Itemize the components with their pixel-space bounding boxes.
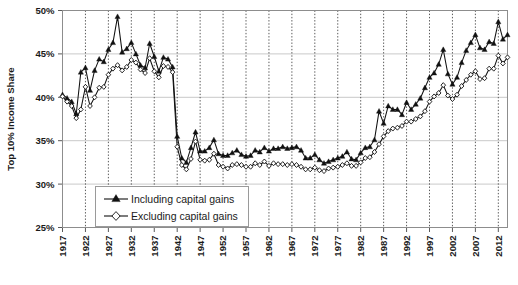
data-point-marker xyxy=(409,119,414,124)
data-point-marker xyxy=(299,164,304,169)
data-point-marker xyxy=(285,163,290,168)
data-point-marker xyxy=(473,32,478,37)
x-tick-label: 2012 xyxy=(493,236,504,257)
data-point-marker xyxy=(161,64,166,69)
x-tick-label: 1937 xyxy=(149,236,160,257)
data-point-marker xyxy=(290,162,295,167)
data-point-marker xyxy=(464,48,469,53)
data-point-marker xyxy=(92,68,97,73)
data-point-marker xyxy=(234,148,239,153)
data-point-marker xyxy=(404,100,409,105)
x-tick-label: 1922 xyxy=(80,236,91,257)
data-point-marker xyxy=(129,40,134,45)
data-point-marker xyxy=(436,62,441,67)
data-point-marker xyxy=(317,168,322,173)
data-point-marker xyxy=(468,40,473,45)
data-point-marker xyxy=(83,65,88,70)
data-point-marker xyxy=(372,137,377,142)
data-point-marker xyxy=(244,164,249,169)
data-point-marker xyxy=(216,151,221,156)
data-point-marker xyxy=(97,56,102,61)
data-point-marker xyxy=(188,145,193,150)
x-tick-label: 1997 xyxy=(424,236,435,257)
x-tick-label: 1927 xyxy=(103,236,114,257)
data-point-marker xyxy=(487,39,492,44)
data-series-group xyxy=(60,14,510,174)
data-point-marker xyxy=(294,144,299,149)
data-point-marker xyxy=(294,163,299,168)
data-point-marker xyxy=(477,45,482,50)
income-share-line-chart: 25%30%35%40%45%50% 191719221927193219371… xyxy=(0,0,518,285)
data-point-marker xyxy=(207,145,212,150)
chart-legend: Including capital gains Excluding capita… xyxy=(96,187,249,227)
y-tick-label: 45% xyxy=(35,48,55,59)
data-point-marker xyxy=(308,167,313,172)
data-point-marker xyxy=(391,126,396,131)
data-point-marker xyxy=(211,137,216,142)
data-point-marker xyxy=(326,166,331,171)
series-excluding-capital-gains xyxy=(60,53,510,173)
data-point-marker xyxy=(262,145,267,150)
data-point-marker xyxy=(239,163,244,168)
data-point-marker xyxy=(202,158,207,163)
horizontal-gridlines xyxy=(63,11,508,185)
data-point-marker xyxy=(280,144,285,149)
x-tick-label: 1967 xyxy=(286,236,297,257)
data-point-marker xyxy=(198,157,203,162)
x-tick-label: 1917 xyxy=(57,236,68,257)
legend-label-including: Including capital gains xyxy=(131,193,234,205)
x-axis-tick-labels: 1917192219271932193719421947195219571962… xyxy=(57,236,504,257)
data-point-marker xyxy=(88,103,93,108)
series-including-capital-gains xyxy=(60,14,510,165)
data-point-marker xyxy=(79,107,84,112)
data-point-marker xyxy=(349,163,354,168)
data-point-marker xyxy=(87,88,92,93)
x-tick-label: 1977 xyxy=(332,236,343,257)
data-point-marker xyxy=(271,161,276,166)
data-point-marker xyxy=(381,121,386,126)
data-point-marker xyxy=(376,108,381,113)
data-point-marker xyxy=(221,164,226,169)
data-point-marker xyxy=(491,66,496,71)
x-tick-label: 1962 xyxy=(263,236,274,257)
x-tick-label: 1992 xyxy=(401,236,412,257)
data-point-marker xyxy=(161,55,166,60)
x-tick-label: 2007 xyxy=(470,236,481,257)
data-point-marker xyxy=(101,84,106,89)
x-tick-label: 1972 xyxy=(309,236,320,257)
y-tick-label: 40% xyxy=(35,92,55,103)
data-point-marker xyxy=(147,41,152,46)
y-axis-title: Top 10% Income Share xyxy=(5,67,16,170)
y-tick-label: 25% xyxy=(35,222,55,233)
data-point-marker xyxy=(422,85,427,90)
x-tick-label: 1932 xyxy=(126,236,137,257)
data-point-marker xyxy=(101,59,106,64)
data-point-marker xyxy=(193,129,198,134)
data-point-marker xyxy=(189,156,194,161)
data-point-marker xyxy=(276,162,281,167)
data-point-marker xyxy=(340,163,345,168)
data-point-marker xyxy=(331,165,336,170)
x-tick-label: 1982 xyxy=(355,236,366,257)
y-tick-label: 30% xyxy=(35,179,55,190)
data-point-marker xyxy=(386,103,391,108)
data-point-marker xyxy=(97,85,102,90)
data-point-marker xyxy=(459,60,464,65)
data-point-marker xyxy=(322,169,327,174)
data-point-marker xyxy=(413,117,418,122)
data-point-marker xyxy=(312,152,317,157)
data-point-marker xyxy=(482,76,487,81)
data-point-marker xyxy=(313,165,318,170)
y-tick-label: 35% xyxy=(35,135,55,146)
data-point-marker xyxy=(445,71,450,76)
x-tick-label: 1952 xyxy=(217,236,228,257)
data-point-marker xyxy=(344,149,349,154)
data-point-marker xyxy=(395,125,400,130)
data-point-marker xyxy=(496,19,501,24)
x-tick-label: 1987 xyxy=(378,236,389,257)
x-tick-label: 1942 xyxy=(172,236,183,257)
x-tick-label: 2002 xyxy=(447,236,458,257)
legend-label-excluding: Excluding capital gains xyxy=(131,210,238,222)
data-point-marker xyxy=(175,134,180,139)
data-point-marker xyxy=(147,56,152,61)
